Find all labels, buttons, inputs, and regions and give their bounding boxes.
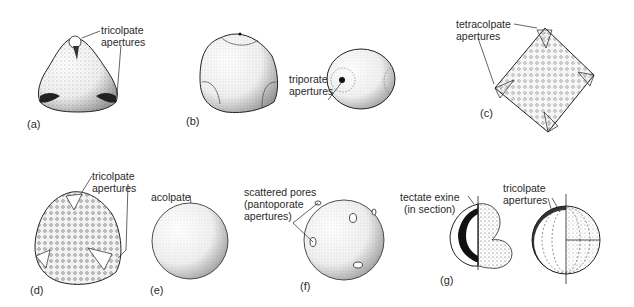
panel-tag-d: (d) <box>30 284 43 296</box>
label-g-line3: tricolpate <box>503 182 546 194</box>
panel-tag-g: (g) <box>440 274 453 286</box>
grain-g-tricolpate-section <box>532 194 600 284</box>
label-g-line2: (in section) <box>404 203 455 215</box>
label-g-line4: apertures <box>503 194 547 206</box>
label-a-line2: apertures <box>101 36 145 48</box>
label-a-line1: tricolpate <box>101 24 144 36</box>
label-f-line1: scattered pores <box>244 186 316 198</box>
panel-tag-b: (b) <box>186 115 199 127</box>
label-b-line1: triporate <box>289 73 328 85</box>
label-f-line3: apertures) <box>244 210 292 222</box>
label-d-line2: apertures <box>92 182 136 194</box>
grain-b-triporate-side <box>200 33 278 113</box>
diagram-canvas <box>0 0 634 307</box>
grain-f-pantoporate <box>293 200 384 280</box>
grain-b-triporate-polar <box>327 49 395 109</box>
label-c-line1: tetracolpate <box>456 18 511 30</box>
label-e-line1: acolpate <box>151 191 191 203</box>
label-g-line1: tectate exine <box>400 191 460 203</box>
panel-tag-c: (c) <box>480 107 493 119</box>
label-d-line1: tricolpate <box>92 170 135 182</box>
panel-tag-f: (f) <box>300 280 310 292</box>
label-f-line2: (pantoporate <box>244 198 304 210</box>
label-c-line2: apertures <box>456 30 500 42</box>
panel-tag-e: (e) <box>150 284 163 296</box>
panel-tag-a: (a) <box>27 118 40 130</box>
label-b-line2: apertures <box>289 85 333 97</box>
grain-e-acolpate <box>152 195 228 279</box>
grain-g-tectate-section <box>450 196 512 270</box>
